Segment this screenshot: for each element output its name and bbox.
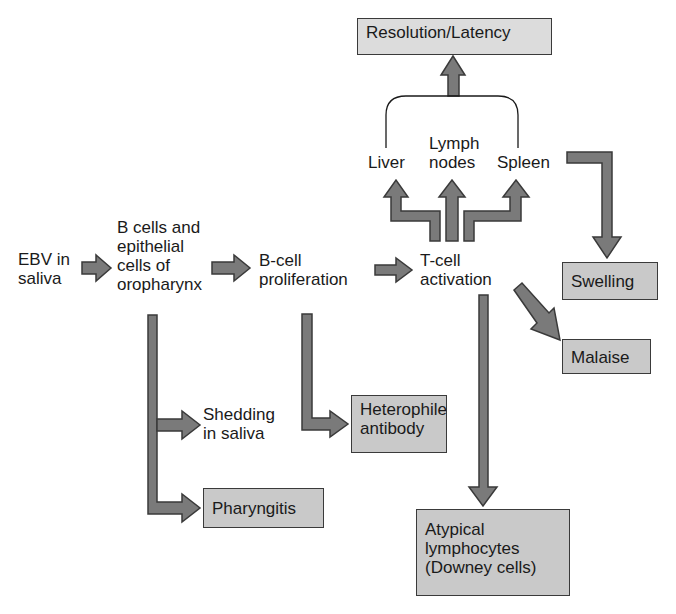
node-prolif: B-cell proliferation: [259, 251, 348, 289]
box-heterophile: Heterophile antibody: [351, 395, 447, 453]
arrow-spleen-to-swelling: [567, 152, 621, 258]
node-liver: Liver: [368, 153, 405, 172]
arrow-bcells-to-shedding: [157, 411, 200, 439]
arrow-bcells-to-prolif: [212, 255, 250, 281]
box-resolution: Resolution/Latency: [357, 18, 552, 55]
arrow-ebv-to-bcells: [82, 255, 111, 281]
arrow-prolif-to-tcell: [375, 258, 412, 282]
arrow-prolif-to-heterophile: [302, 314, 348, 437]
box-atypical: Atypical lymphocytes (Downey cells): [416, 509, 570, 596]
box-swelling: Swelling: [562, 262, 658, 300]
arrow-tcell-to-liver: [384, 180, 440, 241]
diagram-canvas: EBV in saliva B cells and epithelial cel…: [0, 0, 676, 614]
node-shedding: Shedding in saliva: [203, 405, 275, 443]
arrow-tcell-to-malaise: [514, 283, 560, 340]
node-ebv: EBV in saliva: [18, 250, 70, 288]
arrow-to-resolution: [441, 56, 465, 96]
node-tcell: T-cell activation: [420, 251, 492, 289]
node-bcells: B cells and epithelial cells of orophary…: [117, 218, 202, 294]
arrow-tcell-to-lymph: [439, 180, 465, 241]
box-malaise: Malaise: [562, 339, 651, 374]
node-spleen: Spleen: [497, 153, 550, 172]
node-lymph: Lymph nodes: [429, 134, 479, 172]
box-pharyngitis: Pharyngitis: [203, 488, 324, 528]
arrow-tcell-to-spleen: [464, 180, 529, 241]
arrows-layer: [0, 0, 676, 614]
arrow-tcell-to-atypical: [469, 295, 497, 506]
